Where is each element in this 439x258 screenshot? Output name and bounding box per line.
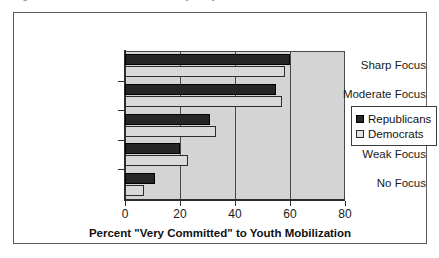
category-label-moderate-focus: Moderate Focus [324, 88, 426, 100]
bar-democrats-modest-focus [125, 126, 216, 137]
y-tick-2 [118, 110, 124, 111]
category-label-weak-focus: Weak Focus [324, 148, 426, 160]
x-tick-20 [180, 201, 181, 206]
x-tick-60 [290, 201, 291, 206]
x-tick-label-20: 20 [160, 207, 200, 221]
bar-republicans-moderate-focus [125, 84, 276, 95]
legend-item-democrats[interactable]: Democrats [356, 126, 431, 141]
y-tick-3 [118, 140, 124, 141]
legend-label-democrats: Democrats [368, 128, 424, 140]
x-tick-80 [345, 201, 346, 206]
legend-swatch-republicans-icon [356, 115, 364, 123]
bar-democrats-no-focus [125, 185, 144, 196]
bar-republicans-no-focus [125, 173, 155, 184]
y-tick-4 [118, 169, 124, 170]
figure-box: Sharp FocusModerate FocusModest FocusWea… [13, 12, 427, 244]
gridline-x-60 [290, 51, 291, 199]
bar-republicans-weak-focus [125, 143, 180, 154]
x-tick-label-80: 80 [325, 207, 365, 221]
bar-democrats-moderate-focus [125, 96, 282, 107]
x-tick-label-0: 0 [105, 207, 145, 221]
legend-item-republicans[interactable]: Republicans [356, 111, 431, 126]
bar-democrats-weak-focus [125, 155, 188, 166]
bar-republicans-sharp-focus [125, 54, 290, 65]
x-tick-label-40: 40 [215, 207, 255, 221]
x-tick-40 [235, 201, 236, 206]
category-label-no-focus: No Focus [324, 177, 426, 189]
bar-democrats-sharp-focus [125, 66, 285, 77]
figure-caption: Figure 3.4 Youth Mobilization Efforts by… [14, 0, 217, 1]
legend-swatch-democrats-icon [356, 130, 364, 138]
y-tick-1 [118, 81, 124, 82]
x-axis-title: Percent "Very Committed" to Youth Mobili… [14, 227, 426, 239]
legend-label-republicans: Republicans [368, 113, 431, 125]
plot-top-border [125, 51, 345, 52]
figure-caption-strip: Figure 3.4 Youth Mobilization Efforts by… [0, 0, 439, 9]
chart-legend: Republicans Democrats [351, 106, 437, 146]
bar-republicans-modest-focus [125, 114, 210, 125]
x-tick-label-60: 60 [270, 207, 310, 221]
category-label-sharp-focus: Sharp Focus [324, 59, 426, 71]
x-tick-0 [125, 201, 126, 206]
